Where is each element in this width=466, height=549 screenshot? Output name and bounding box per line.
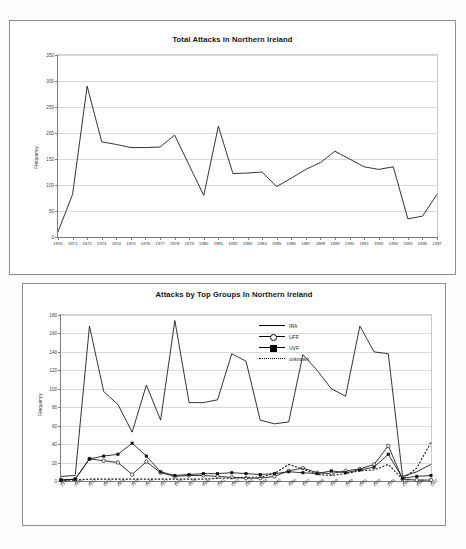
x-tick-label: 1988: [316, 241, 325, 246]
x-tick-label: 1986: [287, 241, 296, 246]
x-tick-label: 1971: [68, 241, 77, 246]
x-tick-mark: [189, 237, 190, 240]
x-tick-mark: [277, 237, 278, 240]
data-point-uvf: [373, 466, 376, 469]
x-tick-label: 1994: [389, 241, 398, 246]
legend-swatch-uff: [259, 333, 285, 341]
data-point-uvf: [415, 475, 418, 478]
data-point-uvf: [259, 473, 262, 476]
y-tick-label: 100: [49, 386, 57, 391]
legend-label: UFF: [289, 334, 299, 340]
y-tick-label: 140: [49, 349, 57, 354]
chart2-legend: IRAUFFUVFunknown: [259, 320, 335, 364]
data-point-uvf: [173, 474, 176, 477]
x-tick-label: 1997: [432, 241, 441, 246]
chart2-title: Attacks by Top Groups In Northern Irelan…: [23, 290, 445, 299]
legend-swatch-ira: [259, 322, 285, 330]
data-point-uff: [130, 473, 133, 476]
data-point-uvf: [330, 469, 333, 472]
data-point-uff: [145, 460, 148, 463]
x-tick-mark: [393, 237, 394, 240]
data-point-uvf: [145, 455, 148, 458]
data-point-uff: [415, 478, 418, 481]
series-layer: [58, 55, 437, 237]
x-tick-label: 1996: [418, 241, 427, 246]
data-point-uvf: [102, 455, 105, 458]
x-tick-mark: [58, 237, 59, 240]
y-tick-label: 350: [46, 53, 54, 58]
y-tick-label: 50: [49, 209, 54, 214]
x-tick-label: 1970: [53, 241, 62, 246]
chart1-y-axis-label: Frequency: [34, 146, 39, 169]
data-point-uvf: [88, 457, 91, 460]
y-tick-label: 160: [49, 331, 57, 336]
x-tick-mark: [335, 237, 336, 240]
x-tick-mark: [204, 237, 205, 240]
data-point-uvf: [131, 442, 134, 445]
x-tick-mark: [262, 237, 263, 240]
legend-item-uvf[interactable]: UVF: [259, 342, 335, 353]
data-point-uvf: [301, 471, 304, 474]
y-tick-label: 0: [54, 479, 57, 484]
x-tick-label: 1976: [141, 241, 150, 246]
x-tick-label: 1984: [257, 241, 266, 246]
x-tick-label: 1979: [185, 241, 194, 246]
page-canvas: Total Attacks in Northern Ireland Freque…: [0, 0, 466, 549]
x-tick-mark: [306, 237, 307, 240]
x-tick-mark: [437, 237, 438, 240]
x-tick-label: 1987: [301, 241, 310, 246]
legend-label: unknown: [289, 356, 309, 362]
x-tick-label: 1974: [112, 241, 121, 246]
chart2-y-axis-label: Frequency: [38, 393, 43, 416]
chart-panel-total-attacks: Total Attacks in Northern Ireland Freque…: [9, 20, 456, 275]
y-tick-label: 0: [51, 235, 54, 240]
x-tick-label: 1972: [82, 241, 91, 246]
y-tick-label: 120: [49, 368, 57, 373]
legend-item-uff[interactable]: UFF: [259, 331, 335, 342]
chart2-plot-area: 0204060801001201401601801970197119721973…: [60, 314, 432, 482]
x-tick-label: 1991: [359, 241, 368, 246]
x-tick-mark: [131, 237, 132, 240]
legend-item-unknown[interactable]: unknown: [259, 353, 335, 364]
data-point-uvf: [202, 472, 205, 475]
series-layer: [61, 315, 431, 481]
data-point-uvf: [287, 470, 290, 473]
data-point-uvf: [387, 453, 390, 456]
y-tick-label: 40: [52, 442, 57, 447]
x-tick-label: 1982: [228, 241, 237, 246]
legend-label: UVF: [289, 345, 299, 351]
data-point-uvf: [216, 472, 219, 475]
x-tick-mark: [73, 237, 74, 240]
x-tick-mark: [408, 237, 409, 240]
x-tick-label: 1977: [155, 241, 164, 246]
x-tick-label: 1981: [214, 241, 223, 246]
x-tick-label: 1989: [330, 241, 339, 246]
chart1-title: Total Attacks in Northern Ireland: [10, 35, 455, 44]
series-line-total: [58, 86, 437, 232]
x-tick-mark: [102, 237, 103, 240]
x-tick-mark: [422, 237, 423, 240]
y-tick-label: 150: [46, 157, 54, 162]
x-tick-mark: [145, 237, 146, 240]
x-tick-mark: [87, 237, 88, 240]
y-tick-label: 60: [52, 423, 57, 428]
x-tick-label: 1975: [126, 241, 135, 246]
y-tick-label: 300: [46, 79, 54, 84]
x-tick-mark: [364, 237, 365, 240]
legend-item-ira[interactable]: IRA: [259, 320, 335, 331]
legend-swatch-uvf: [259, 344, 285, 352]
data-point-uvf: [116, 453, 119, 456]
x-tick-label: 1978: [170, 241, 179, 246]
data-point-uff: [116, 461, 119, 464]
y-tick-label: 180: [49, 313, 57, 318]
x-tick-mark: [175, 237, 176, 240]
x-tick-mark: [291, 237, 292, 240]
x-tick-mark: [160, 237, 161, 240]
x-tick-mark: [379, 237, 380, 240]
data-point-uff: [330, 472, 333, 475]
y-tick-label: 200: [46, 131, 54, 136]
data-point-uvf: [245, 472, 248, 475]
data-point-uff: [387, 444, 390, 447]
x-tick-mark: [116, 237, 117, 240]
y-tick-label: 100: [46, 183, 54, 188]
